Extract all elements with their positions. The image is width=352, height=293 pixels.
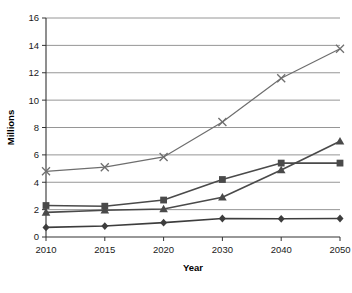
series-square-marker-0: [43, 202, 50, 209]
xtick-label-2020: 2020: [153, 244, 174, 255]
ytick-label-8: 8: [34, 122, 39, 133]
series-square-marker-3: [219, 176, 226, 183]
series-x-marker-5: [336, 45, 344, 53]
series-triangle-marker-3: [218, 193, 227, 201]
series-diamond: [43, 215, 344, 232]
y-axis-title: Millions: [5, 110, 16, 145]
series-square-marker-4: [278, 160, 285, 167]
ytick-label-14: 14: [28, 40, 39, 51]
series-diamond-marker-0: [43, 224, 50, 232]
series-square-marker-2: [160, 197, 167, 204]
ytick-label-4: 4: [34, 177, 39, 188]
line-chart: 0246810121416201020152020203020402050Yea…: [0, 0, 352, 293]
ytick-label-2: 2: [34, 204, 39, 215]
series-triangle: [42, 137, 345, 216]
series-square-marker-5: [337, 160, 344, 167]
xtick-label-2050: 2050: [329, 244, 350, 255]
x-axis-title: Year: [183, 262, 203, 273]
xtick-label-2010: 2010: [35, 244, 56, 255]
series-diamond-marker-3: [219, 215, 226, 223]
series-diamond-line: [46, 219, 340, 228]
series-diamond-marker-5: [337, 215, 344, 223]
ytick-label-0: 0: [34, 231, 39, 242]
xtick-label-2030: 2030: [212, 244, 233, 255]
series-x-marker-3: [218, 118, 226, 126]
series-diamond-marker-2: [160, 219, 167, 227]
ytick-label-6: 6: [34, 149, 39, 160]
series-triangle-marker-5: [336, 137, 345, 145]
series-diamond-marker-4: [278, 215, 285, 223]
series-square: [43, 160, 344, 210]
series-x: [42, 45, 344, 176]
ytick-label-16: 16: [28, 12, 39, 23]
ytick-label-10: 10: [28, 95, 39, 106]
series-diamond-marker-1: [101, 222, 108, 230]
xtick-label-2015: 2015: [94, 244, 115, 255]
xtick-label-2040: 2040: [271, 244, 292, 255]
chart-canvas: 0246810121416201020152020203020402050Yea…: [0, 0, 352, 293]
ytick-label-12: 12: [28, 67, 39, 78]
series-square-line: [46, 163, 340, 206]
series-triangle-marker-4: [277, 166, 286, 174]
series-triangle-line: [46, 141, 340, 212]
series-x-marker-4: [277, 74, 285, 82]
series-x-line: [46, 49, 340, 172]
